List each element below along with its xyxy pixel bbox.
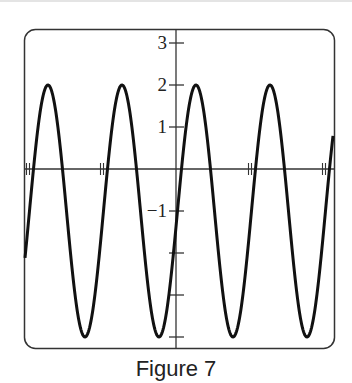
y-tick-label: 2 [158,74,168,95]
y-ticks: 321−1 [147,32,184,337]
chart: 321−1 [0,0,352,383]
y-tick-label: 3 [158,32,168,53]
y-tick-label: 1 [158,116,168,137]
y-tick-label: −1 [147,200,167,221]
figure-caption: Figure 7 [0,356,352,382]
